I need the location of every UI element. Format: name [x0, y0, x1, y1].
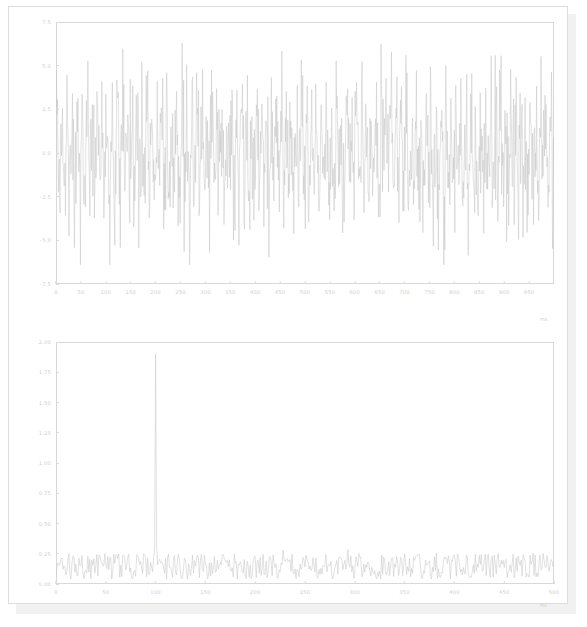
x-tick-label: 750 — [424, 284, 435, 295]
x-tick-mark — [155, 581, 156, 584]
x-tick-mark — [404, 281, 405, 284]
x-tick-label: 250 — [300, 584, 311, 595]
x-tick-label: 150 — [125, 284, 136, 295]
x-tick-mark — [454, 581, 455, 584]
x-tick-mark — [304, 581, 305, 584]
x-tick-mark — [354, 581, 355, 584]
x-tick-label: 800 — [449, 284, 460, 295]
y-tick-label: 0.75 — [39, 490, 56, 496]
y-tick-label: 0.0 — [42, 150, 56, 156]
x-tick-label: 850 — [474, 284, 485, 295]
y-tick-mark — [56, 523, 59, 524]
y-tick-label: -5.0 — [40, 237, 56, 243]
x-tick-mark — [404, 581, 405, 584]
x-tick-mark — [80, 281, 81, 284]
x-tick-label: 200 — [150, 284, 161, 295]
x-tick-label: 450 — [275, 284, 286, 295]
y-tick-mark — [56, 463, 59, 464]
x-tick-label: 550 — [325, 284, 336, 295]
spectrum-plot-line — [56, 342, 554, 584]
y-tick-label: -2.5 — [40, 194, 56, 200]
y-tick-label: 0.25 — [39, 551, 56, 557]
y-tick-mark — [56, 22, 59, 23]
x-tick-mark — [354, 281, 355, 284]
y-tick-mark — [56, 553, 59, 554]
x-tick-mark — [504, 581, 505, 584]
x-tick-label: 100 — [150, 584, 161, 595]
x-tick-label: 650 — [374, 284, 385, 295]
x-tick-mark — [105, 281, 106, 284]
x-tick-mark — [529, 281, 530, 284]
x-tick-label: 350 — [399, 584, 410, 595]
x-tick-mark — [255, 281, 256, 284]
x-tick-mark — [329, 281, 330, 284]
x-tick-mark — [55, 581, 56, 584]
x-tick-mark — [105, 581, 106, 584]
y-tick-label: 0.50 — [39, 521, 56, 527]
y-tick-label: 2.5 — [42, 106, 56, 112]
x-tick-label: 250 — [175, 284, 186, 295]
x-tick-label: 100 — [101, 284, 112, 295]
x-tick-mark — [280, 281, 281, 284]
x-tick-label: 0 — [54, 284, 58, 295]
spectrum-axes: 2.001.751.501.251.000.750.500.250.00 050… — [56, 342, 554, 584]
spectrum-x-axis-label: Hz — [540, 602, 547, 608]
x-tick-mark — [130, 281, 131, 284]
x-tick-label: 0 — [54, 584, 58, 595]
y-tick-label: 1.25 — [39, 430, 56, 436]
y-tick-mark — [56, 65, 59, 66]
y-tick-mark — [56, 432, 59, 433]
x-tick-label: 50 — [102, 584, 109, 595]
x-tick-mark — [479, 281, 480, 284]
x-tick-mark — [504, 281, 505, 284]
x-tick-label: 400 — [449, 584, 460, 595]
y-tick-label: 7.5 — [42, 19, 56, 25]
x-tick-label: 50 — [77, 284, 84, 295]
x-tick-label: 450 — [499, 584, 510, 595]
x-tick-label: 200 — [250, 584, 261, 595]
x-tick-label: 700 — [399, 284, 410, 295]
y-tick-mark — [56, 196, 59, 197]
y-tick-mark — [56, 342, 59, 343]
time-series-plot-line — [56, 22, 554, 284]
x-tick-label: 500 — [549, 584, 560, 595]
x-tick-mark — [155, 281, 156, 284]
y-tick-mark — [56, 372, 59, 373]
time-series-x-axis-label: ms — [540, 316, 548, 322]
x-tick-label: 150 — [200, 584, 211, 595]
time-series-axes: 7.55.02.50.0-2.5-5.0-7.5 050100150200250… — [56, 22, 554, 284]
y-tick-label: 1.75 — [39, 369, 56, 375]
x-tick-mark — [454, 281, 455, 284]
x-tick-label: 400 — [250, 284, 261, 295]
x-tick-mark — [55, 281, 56, 284]
x-tick-mark — [180, 281, 181, 284]
y-tick-label: 2.00 — [39, 339, 56, 345]
x-tick-mark — [255, 581, 256, 584]
x-tick-mark — [230, 281, 231, 284]
x-tick-mark — [205, 281, 206, 284]
x-tick-label: 300 — [200, 284, 211, 295]
x-tick-mark — [553, 581, 554, 584]
matplotlib-figure-canvas: 7.55.02.50.0-2.5-5.0-7.5 050100150200250… — [10, 8, 566, 602]
y-tick-mark — [56, 153, 59, 154]
x-tick-label: 950 — [524, 284, 535, 295]
y-tick-label: 1.00 — [39, 460, 56, 466]
y-tick-mark — [56, 109, 59, 110]
x-tick-mark — [429, 281, 430, 284]
x-tick-label: 900 — [499, 284, 510, 295]
y-tick-mark — [56, 402, 59, 403]
x-tick-mark — [205, 581, 206, 584]
x-tick-label: 300 — [350, 584, 361, 595]
y-tick-mark — [56, 493, 59, 494]
x-tick-mark — [304, 281, 305, 284]
y-tick-mark — [56, 240, 59, 241]
y-tick-label: 1.50 — [39, 400, 56, 406]
figure-window: 7.55.02.50.0-2.5-5.0-7.5 050100150200250… — [0, 0, 587, 627]
y-tick-label: 5.0 — [42, 63, 56, 69]
x-tick-label: 500 — [300, 284, 311, 295]
x-tick-label: 600 — [350, 284, 361, 295]
x-tick-mark — [379, 281, 380, 284]
x-tick-label: 350 — [225, 284, 236, 295]
